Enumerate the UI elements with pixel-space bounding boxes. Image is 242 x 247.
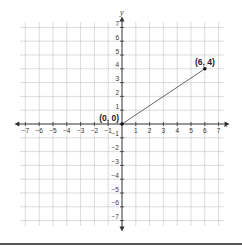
y-tick-label: −1 xyxy=(112,130,120,137)
x-tick-label: −5 xyxy=(49,127,57,134)
x-tick-label: −3 xyxy=(77,127,85,134)
x-tick-label: −4 xyxy=(63,127,71,134)
point-label: (6, 4) xyxy=(195,57,215,67)
x-tick-label: −6 xyxy=(35,127,43,134)
y-axis-label: y xyxy=(119,8,124,17)
arrow-down-icon xyxy=(120,227,125,232)
y-tick-label: −6 xyxy=(112,199,120,206)
y-tick-label: −4 xyxy=(112,172,120,179)
x-tick-label: 3 xyxy=(162,127,166,134)
x-tick-label: 2 xyxy=(148,127,152,134)
x-tick-label: −7 xyxy=(22,127,30,134)
arrow-left-icon xyxy=(14,122,19,127)
data-point xyxy=(120,122,124,126)
y-tick-label: 3 xyxy=(115,75,119,82)
x-tick-label: 4 xyxy=(175,127,179,134)
y-tick-label: 5 xyxy=(115,48,119,55)
coordinate-plane: −7−6−5−4−3−2−112345677654321−1−2−3−4−5−6… xyxy=(0,0,242,247)
tick-labels: −7−6−5−4−3−2−112345677654321−1−2−3−4−5−6… xyxy=(22,20,221,220)
y-tick-label: −5 xyxy=(112,186,120,193)
y-tick-label: 6 xyxy=(115,34,119,41)
x-tick-label: 7 xyxy=(217,127,221,134)
x-tick-label: −2 xyxy=(91,127,99,134)
y-tick-label: −3 xyxy=(112,158,120,165)
y-tick-label: 1 xyxy=(115,103,119,110)
y-tick-label: −7 xyxy=(112,213,120,220)
x-tick-label: 6 xyxy=(203,127,207,134)
y-tick-label: 4 xyxy=(115,61,119,68)
y-tick-label: 7 xyxy=(115,20,119,27)
bottom-divider xyxy=(0,243,242,245)
y-tick-label: −2 xyxy=(112,144,120,151)
x-tick-label: 5 xyxy=(189,127,193,134)
point-label: (0, 0) xyxy=(99,113,119,123)
x-tick-label: 1 xyxy=(134,127,138,134)
data-point xyxy=(203,67,207,71)
arrow-up-icon xyxy=(120,16,125,21)
y-tick-label: 2 xyxy=(115,89,119,96)
x-axis-label: x xyxy=(223,120,228,129)
